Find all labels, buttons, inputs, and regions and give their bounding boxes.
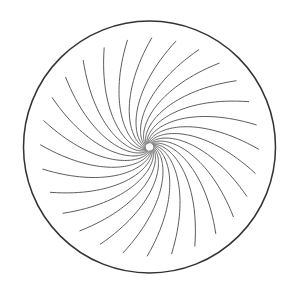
center-hub xyxy=(146,143,153,150)
figure-root xyxy=(0,0,299,292)
spiral-diagram xyxy=(0,0,299,292)
